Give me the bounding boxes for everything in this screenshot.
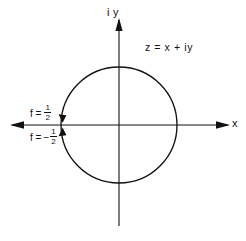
complex-plane-figure: i y x z = x + iy f = 1 2 f = − 1 2 [0,0,246,241]
f-negative-lhs: f = [30,132,41,143]
f-negative-sign: − [43,132,49,143]
x-axis-label: x [232,118,238,129]
vertical-axis [115,18,122,226]
f-positive-denominator: 2 [44,113,50,122]
y-axis-up-arrowhead [115,18,122,31]
f-positive-lhs: f = [30,108,41,119]
f-negative-numerator: 1 [50,128,56,137]
y-axis-label: i y [107,7,119,18]
f-negative-denominator: 2 [50,137,56,146]
x-axis-right-arrowhead [216,121,230,129]
f-positive-fraction: 1 2 [44,104,50,122]
f-negative-arrowhead-icon [59,128,67,137]
x-axis-left-arrowhead [10,121,24,129]
f-positive-numerator: 1 [44,104,50,113]
f-positive-arrowhead-icon [59,114,67,123]
z-expression-label: z = x + iy [145,42,193,53]
f-negative-label: f = − 1 2 [30,128,57,146]
f-negative-fraction: 1 2 [50,128,56,146]
f-positive-label: f = 1 2 [30,104,51,122]
